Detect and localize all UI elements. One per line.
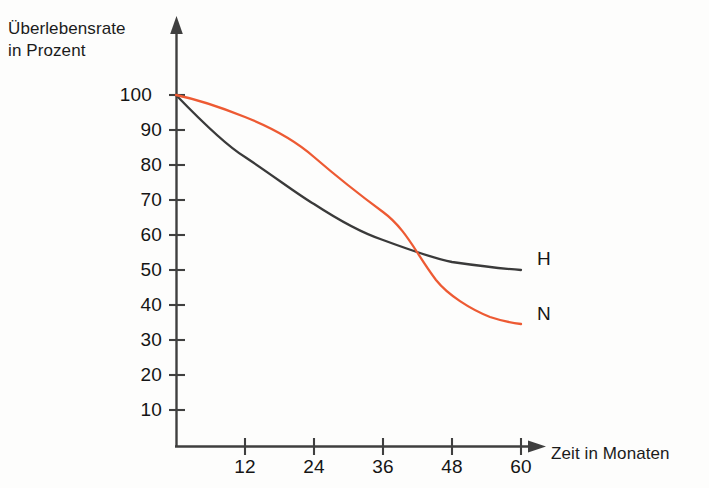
- y-tick-label-30: 30: [102, 329, 162, 351]
- x-tick-label-60: 60: [498, 456, 544, 478]
- y-tick-label-70: 70: [102, 189, 162, 211]
- x-tick-label-36: 36: [360, 456, 406, 478]
- x-tick-label-24: 24: [291, 456, 337, 478]
- y-axis-title-line-2: in Prozent: [8, 41, 86, 60]
- x-tick-label-12: 12: [222, 456, 268, 478]
- x-axis-title: Zeit in Monaten: [551, 443, 670, 465]
- x-axis-arrowhead: [528, 440, 546, 452]
- y-axis-arrowhead: [170, 16, 183, 34]
- x-tick-label-48: 48: [429, 456, 475, 478]
- y-tick-label-40: 40: [102, 294, 162, 316]
- y-tick-label-60: 60: [102, 224, 162, 246]
- y-tick-label-50: 50: [102, 259, 162, 281]
- survival-rate-chart: Überlebensratein Prozent Zeit in Monaten…: [0, 0, 709, 488]
- y-tick-label-80: 80: [102, 154, 162, 176]
- y-tick-label-10: 10: [102, 399, 162, 421]
- y-tick-label-90: 90: [102, 119, 162, 141]
- y-axis-title-line-1: Überlebensrate: [8, 19, 126, 38]
- series-line-h: [176, 95, 521, 270]
- y-tick-label-100: 100: [92, 84, 152, 106]
- y-tick-label-20: 20: [102, 364, 162, 386]
- x-axis: [175, 440, 546, 452]
- series-label-h: H: [537, 248, 551, 270]
- series-line-n: [176, 95, 521, 324]
- y-axis: [170, 16, 183, 447]
- series-label-n: N: [537, 303, 551, 325]
- y-axis-title: Überlebensratein Prozent: [8, 18, 126, 63]
